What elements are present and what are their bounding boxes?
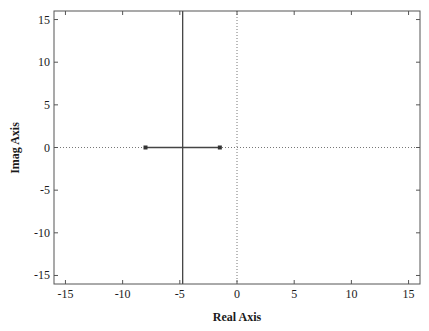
tick-labels: -15-10-5051015-15-10-5051015 (34, 13, 415, 301)
x-tick-label: 10 (345, 287, 357, 301)
x-tick-label: -5 (175, 287, 185, 301)
y-tick-label: -10 (34, 226, 50, 240)
y-tick-label: 0 (44, 141, 50, 155)
y-tick-label: 5 (44, 98, 50, 112)
pole-marker (218, 146, 222, 150)
root-locus-chart: -15-10-5051015-15-10-5051015 Real Axis I… (0, 0, 429, 331)
y-tick-label: 15 (38, 13, 50, 27)
y-tick-label: 10 (38, 55, 50, 69)
y-tick-label: -15 (34, 268, 50, 282)
plot-area (54, 11, 420, 284)
pole-marker (144, 146, 148, 150)
x-tick-label: 0 (234, 287, 240, 301)
y-tick-label: -5 (40, 183, 50, 197)
x-axis-label: Real Axis (213, 310, 262, 324)
x-tick-label: -10 (115, 287, 131, 301)
x-tick-label: 15 (403, 287, 415, 301)
x-tick-label: -15 (57, 287, 73, 301)
x-tick-label: 5 (291, 287, 297, 301)
y-axis-label: Imag Axis (8, 122, 22, 174)
